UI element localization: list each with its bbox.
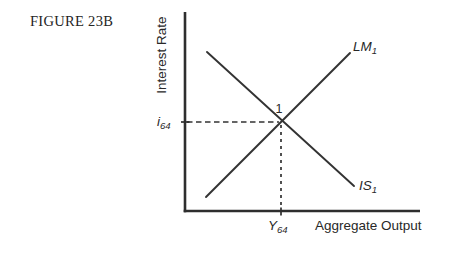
equilibrium-point-label: 1 — [276, 102, 283, 116]
x-axis-title: Aggregate Output — [315, 218, 422, 233]
lm-curve — [206, 53, 350, 197]
is-curve-label-main: IS — [359, 178, 372, 193]
interest-rate-value-sub: 64 — [160, 120, 171, 131]
y-axis-title: Interest Rate — [154, 16, 169, 93]
output-value-sub: 64 — [277, 224, 288, 235]
interest-rate-value-label: i64 — [157, 114, 171, 131]
lm-curve-label-sub: 1 — [372, 45, 377, 56]
lm-curve-label: LM1 — [353, 39, 377, 56]
is-curve-label-sub: 1 — [372, 184, 377, 195]
is-lm-diagram: Interest Rate Aggregate Output LM1 IS1 1… — [0, 0, 449, 261]
output-value-label: Y64 — [268, 218, 288, 235]
lm-curve-label-main: LM — [353, 39, 373, 54]
textbook-figure-page: FIGURE 23B Interest Rate Aggregate Outpu… — [0, 0, 449, 261]
is-curve-label: IS1 — [359, 178, 377, 195]
